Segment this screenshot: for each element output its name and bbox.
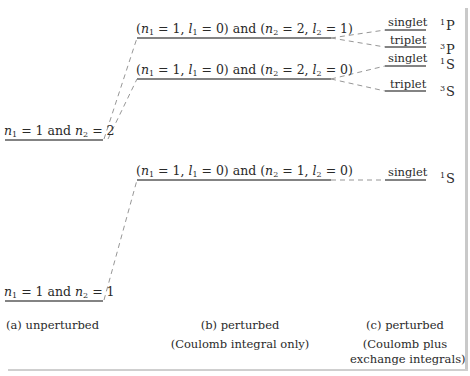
caption-c-line3: exchange integrals) [350,352,460,367]
label-coulomb-2p: (n1 = 1, l1 = 0) and (n2 = 2, l2 = 1) [136,22,353,40]
spin-label-singlet-1P: singlet [388,15,427,29]
term-1S-excited: 1S [440,55,455,72]
spin-label-triplet-3S: triplet [390,77,426,91]
caption-c-line2: (Coulomb plus [350,337,460,352]
label-coulomb-2s: (n1 = 1, l1 = 0) and (n2 = 2, l2 = 0) [136,63,353,81]
label-unperturbed-n2-2: n1 = 1 and n2 = 2 [4,124,115,142]
caption-c: (c) perturbed (Coulomb plus exchange int… [350,318,460,367]
term-3S: 3S [440,82,455,99]
caption-a-line1: (a) unperturbed [6,318,99,333]
spin-label-triplet-3P: triplet [390,33,426,47]
spin-label-singlet-1S-excited: singlet [388,51,427,65]
connector-n1-to-1s [104,180,137,300]
caption-b-line1: (b) perturbed [165,318,315,333]
caption-c-line1: (c) perturbed [350,318,460,333]
label-coulomb-1s: (n1 = 1, l1 = 0) and (n2 = 1, l2 = 0) [136,164,353,182]
label-unperturbed-n2-1: n1 = 1 and n2 = 1 [4,285,115,303]
caption-a: (a) unperturbed [6,318,99,333]
term-1S-ground: 1S [440,169,455,186]
spin-label-singlet-1S-ground: singlet [388,165,427,179]
caption-b: (b) perturbed (Coulomb integral only) [165,318,315,352]
term-1P: 1P [440,16,455,33]
caption-b-line2: (Coulomb integral only) [165,337,315,352]
